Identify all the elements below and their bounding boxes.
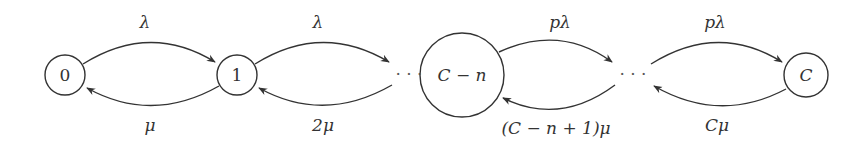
edge-label-c-mu: Cμ [705, 115, 729, 135]
edge-c-minus-n-to-ellipsis [499, 40, 612, 62]
edge-label-p-lambda-2: pλ [704, 12, 726, 32]
state-node-c-minus-n: C − n [420, 33, 504, 117]
state-node-c: C [784, 53, 828, 97]
markov-chain-diagram: 0 1 C − n C · · · · · · λ μ λ 2μ pλ (C −… [0, 0, 866, 153]
edge-label-lambda-1-next: λ [312, 12, 324, 32]
ellipsis-1: · · · [395, 64, 422, 84]
state-label-c-minus-n: C − n [437, 65, 486, 85]
edge-0-to-1 [83, 42, 215, 64]
state-node-0: 0 [45, 55, 85, 95]
edge-label-mu-1-0: μ [144, 115, 155, 135]
state-label-0: 0 [60, 65, 71, 85]
edge-label-c-minus-n-plus-1-mu: (C − n + 1)μ [501, 118, 610, 138]
edge-1-to-0 [87, 86, 219, 106]
state-node-1: 1 [217, 55, 257, 95]
edge-label-p-lambda-1: pλ [549, 12, 571, 32]
edge-ellipsis-to-c [651, 42, 782, 64]
edge-ellipsis-to-c-minus-n [503, 85, 615, 109]
state-label-1: 1 [232, 65, 243, 85]
edge-label-2mu: 2μ [311, 115, 334, 135]
edge-c-to-ellipsis [654, 86, 786, 106]
edge-label-lambda-0-1: λ [139, 12, 151, 32]
edge-1-to-ellipsis [255, 42, 389, 64]
ellipsis-2: · · · [619, 64, 646, 84]
state-label-c: C [799, 65, 812, 85]
edge-ellipsis-to-1 [259, 85, 392, 105]
